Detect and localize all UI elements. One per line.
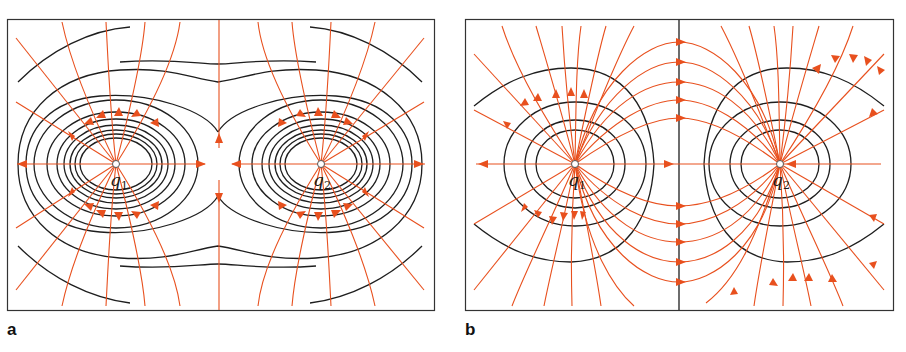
charge-label-q2: q2 xyxy=(772,172,790,191)
charge-q1-marker xyxy=(572,161,579,168)
charge-label-q1: q1 xyxy=(568,172,586,191)
charge-label-q2: q2 xyxy=(313,172,331,191)
charge-q1-marker xyxy=(113,161,120,168)
field-diagram-b xyxy=(456,0,906,352)
panel-b-opposite-charges: q1 q2 b xyxy=(456,0,906,352)
charge-q2-marker xyxy=(777,161,784,168)
panel-label-a: a xyxy=(7,320,16,340)
panel-label-b: b xyxy=(465,320,475,340)
charge-label-q1: q1 xyxy=(110,172,128,191)
panel-a-like-charges: q1 q2 a xyxy=(0,0,450,352)
field-diagram-a xyxy=(0,0,450,352)
charge-q2-marker xyxy=(318,161,325,168)
